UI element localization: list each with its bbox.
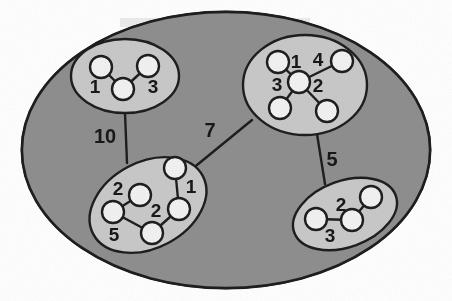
weight-label-tl-e1: 1 [90, 76, 101, 97]
weight-label-tr-e4: 2 [313, 75, 324, 96]
weight-label-tr-e1: 1 [291, 51, 302, 72]
node-bl-n1 [164, 157, 186, 179]
weight-label-br-e2: 2 [336, 194, 347, 215]
node-tr-n2 [331, 50, 353, 72]
node-tr-n4 [316, 100, 338, 122]
node-tl-n1 [90, 56, 112, 78]
node-br-n3 [360, 186, 382, 208]
node-bl-n4 [102, 201, 124, 223]
weight-label-bl-e3: 5 [109, 224, 120, 245]
clustered-graph-diagram: 1 3 1 4 3 2 [0, 0, 452, 301]
weight-label-bl-e1: 1 [186, 176, 197, 197]
top-right-cluster: 1 4 3 2 [243, 35, 367, 135]
weight-label-edge-tl-bl: 10 [94, 125, 116, 147]
node-tr-n1 [267, 51, 289, 73]
node-bl-n5 [129, 184, 151, 206]
node-tr-n3 [269, 97, 291, 119]
node-bl-n2 [168, 198, 190, 220]
weight-label-bl-e4: 2 [113, 178, 124, 199]
top-left-cluster: 1 3 [71, 39, 179, 113]
weight-label-bl-e2: 2 [151, 200, 162, 221]
weight-label-tr-e3: 3 [272, 74, 283, 95]
node-br-n1 [305, 208, 327, 230]
weight-label-tr-e2: 4 [313, 49, 324, 70]
diagram-page: 1 3 1 4 3 2 [0, 0, 452, 301]
weight-label-edge-tr-br: 5 [326, 148, 337, 170]
node-tl-n3 [112, 78, 134, 100]
weight-label-br-e1: 3 [325, 225, 336, 246]
top-left-cluster-boundary [71, 39, 179, 113]
weight-label-edge-bl-tr: 7 [204, 119, 215, 141]
node-tl-n2 [137, 55, 159, 77]
node-bl-n3 [141, 222, 163, 244]
weight-label-tl-e2: 3 [148, 76, 159, 97]
node-tr-center [288, 71, 310, 93]
